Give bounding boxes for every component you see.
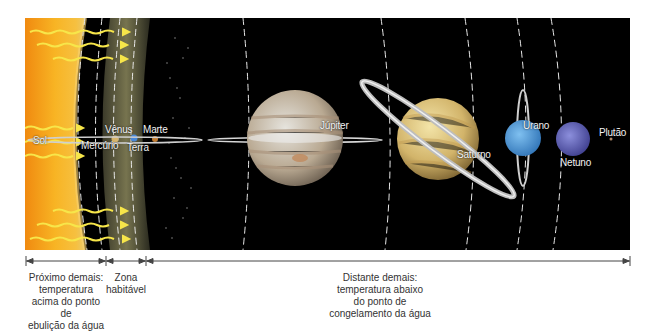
label-sol: Sol [33, 135, 47, 146]
space-panel: Sol Mercúrio Vênus Terra Marte Júpiter S… [25, 18, 630, 250]
caption-line: congelamento da água [320, 308, 440, 320]
label-urano: Urano [523, 120, 549, 131]
caption-line: ebulição da água [26, 320, 106, 332]
caption-habitable-zone: Zona habitável [104, 272, 148, 296]
zone-range-arrows [0, 252, 655, 270]
label-mercurio: Mercúrio [81, 140, 118, 151]
label-jupiter: Júpiter [320, 120, 349, 131]
caption-line: Distante demais: [320, 272, 440, 284]
caption-line: temperatura [26, 284, 106, 296]
label-marte: Marte [143, 124, 168, 135]
caption-line: Próximo demais: [26, 272, 106, 284]
netuno-body [556, 122, 590, 156]
label-terra: Terra [127, 142, 149, 153]
caption-line: do ponto de [320, 296, 440, 308]
caption-line: acima do ponto de [26, 296, 106, 320]
label-venus: Vênus [105, 124, 132, 135]
caption-line: Zona [104, 272, 148, 284]
caption-cold-zone: Distante demais: temperatura abaixo do p… [320, 272, 440, 320]
caption-line: habitável [104, 284, 148, 296]
terra-planet [131, 135, 138, 142]
label-saturno: Saturno [457, 149, 491, 160]
label-plutao: Plutão [599, 127, 626, 138]
caption-line: temperatura abaixo [320, 284, 440, 296]
caption-hot-zone: Próximo demais: temperatura acima do pon… [26, 272, 106, 332]
label-netuno: Netuno [560, 157, 591, 168]
